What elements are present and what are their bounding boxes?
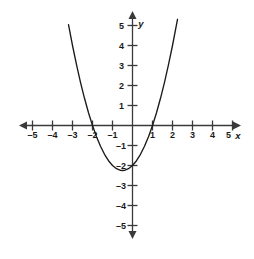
y-axis-up-arrow-icon xyxy=(129,11,137,19)
y-tick-label: 2 xyxy=(119,81,124,91)
y-tick-label: –3 xyxy=(116,181,126,191)
graph-figure: –5 –4 –3 –2 –1 1 2 3 4 5 5 4 3 2 1 –1 –2… xyxy=(0,0,254,259)
y-axis-down-arrow-icon xyxy=(129,231,137,239)
x-tick-label: –1 xyxy=(107,130,117,140)
x-axis-label: x xyxy=(234,130,241,141)
x-axis-right-arrow-icon xyxy=(233,122,241,130)
x-tick-label: –4 xyxy=(47,130,57,140)
x-tick-label: 3 xyxy=(190,130,195,140)
y-tick-label: 1 xyxy=(119,101,124,111)
y-tick-label: –5 xyxy=(116,221,126,231)
y-tick-label: –4 xyxy=(116,201,126,211)
x-axis-left-arrow-icon xyxy=(19,122,27,130)
y-tick-label: –1 xyxy=(116,141,126,151)
x-axis-tick-labels: –5 –4 –3 –2 –1 1 2 3 4 5 xyxy=(27,130,231,140)
coordinate-plane-svg: –5 –4 –3 –2 –1 1 2 3 4 5 5 4 3 2 1 –1 –2… xyxy=(0,0,254,259)
y-tick-label: 3 xyxy=(119,61,124,71)
y-tick-label: 5 xyxy=(119,21,124,31)
x-tick-label: –5 xyxy=(27,130,37,140)
x-tick-label: 4 xyxy=(210,130,215,140)
x-tick-label: 5 xyxy=(226,130,231,140)
x-tick-label: –3 xyxy=(67,130,77,140)
y-tick-label: 4 xyxy=(119,41,124,51)
y-axis-label: y xyxy=(137,18,144,29)
x-tick-label: 2 xyxy=(170,130,175,140)
